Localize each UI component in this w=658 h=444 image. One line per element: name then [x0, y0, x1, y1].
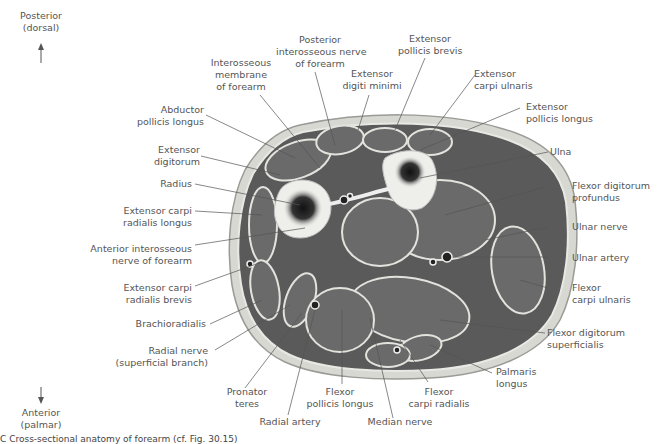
figure-caption: C Cross-sectional anatomy of forearm (cf…	[0, 434, 237, 444]
label-flexor-pollicis-longus: Flexor pollicis longus	[300, 386, 380, 410]
label-extensor-pollicis-longus: Extensor pollicis longus	[526, 101, 593, 125]
label-pronator-teres: Pronator teres	[222, 386, 272, 410]
label-extensor-carpi-radialis-brevis: Extensor carpi radialis brevis	[100, 282, 192, 306]
label-extensor-digiti-minimi: Extensor digiti minimi	[340, 68, 404, 92]
label-flexor-digitorum-superficialis: Flexor digitorum superficialis	[547, 327, 625, 351]
label-flexor-digitorum-profundus: Flexor digitorum profundus	[572, 180, 650, 204]
label-palmaris-longus: Palmaris longus	[496, 366, 536, 390]
label-abductor-pollicis-longus: Abductor pollicis longus	[120, 104, 204, 128]
label-ulnar-artery: Ulnar artery	[572, 252, 629, 264]
label-radial-nerve-superficial-branch: Radial nerve (superficial branch)	[80, 345, 208, 369]
arrow-down-icon	[37, 387, 45, 405]
label-radius: Radius	[120, 178, 192, 190]
label-extensor-carpi-ulnaris: Extensor carpi ulnaris	[474, 68, 533, 92]
label-brachioradialis: Brachioradialis	[100, 318, 206, 330]
label-posterior-interosseous-nerve: Posterior interosseous nerve of forearm	[276, 34, 364, 70]
label-extensor-carpi-radialis-longus: Extensor carpi radialis longus	[100, 205, 192, 229]
label-flexor-carpi-ulnaris: Flexor carpi ulnaris	[572, 282, 631, 306]
label-extensor-pollicis-brevis: Extensor pollicis brevis	[398, 33, 462, 57]
arrow-up-icon	[37, 43, 45, 63]
label-radial-artery: Radial artery	[255, 416, 325, 428]
label-median-nerve: Median nerve	[365, 416, 435, 428]
label-ulnar-nerve: Ulnar nerve	[572, 221, 628, 233]
label-interosseous-membrane: Interosseous membrane of forearm	[208, 57, 274, 93]
label-anterior-interosseous-nerve: Anterior interosseous nerve of forearm	[70, 243, 192, 267]
label-flexor-carpi-radialis: Flexor carpi radialis	[404, 386, 474, 410]
orientation-posterior-label: Posterior (dorsal)	[18, 10, 64, 34]
label-ulna: Ulna	[550, 146, 571, 158]
orientation-anterior-label: Anterior (palmar)	[18, 407, 64, 431]
label-extensor-digitorum: Extensor digitorum	[120, 144, 200, 168]
